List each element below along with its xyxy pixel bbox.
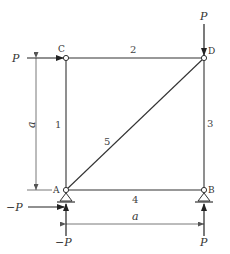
- load-label-c-horizontal: P: [11, 52, 20, 65]
- node-label-b: B: [208, 185, 215, 195]
- truss-diagram: C D A B 2 1 3 4 5 a a P P −P −P P: [0, 0, 230, 254]
- dimension-label-vertical: a: [25, 121, 38, 128]
- node-label-c: C: [58, 44, 65, 54]
- load-label-a-vertical: −P: [55, 236, 72, 249]
- node-label-d: D: [208, 46, 215, 56]
- member-label-4: 4: [132, 194, 138, 205]
- node-label-a: A: [52, 185, 60, 195]
- joint-b: [201, 187, 206, 192]
- load-label-a-horizontal: −P: [6, 201, 23, 214]
- joint-a: [63, 187, 68, 192]
- member-label-5: 5: [104, 136, 110, 147]
- support-a-pin-icon: [57, 193, 75, 202]
- member-5: [66, 58, 204, 190]
- load-label-d-vertical: P: [199, 10, 208, 23]
- member-label-1: 1: [55, 119, 61, 130]
- dimension-label-horizontal: a: [132, 210, 139, 223]
- joint-d: [201, 55, 206, 60]
- load-label-b-vertical: P: [199, 236, 208, 249]
- member-label-2: 2: [130, 44, 136, 55]
- member-label-3: 3: [207, 118, 213, 129]
- joint-c: [63, 55, 68, 60]
